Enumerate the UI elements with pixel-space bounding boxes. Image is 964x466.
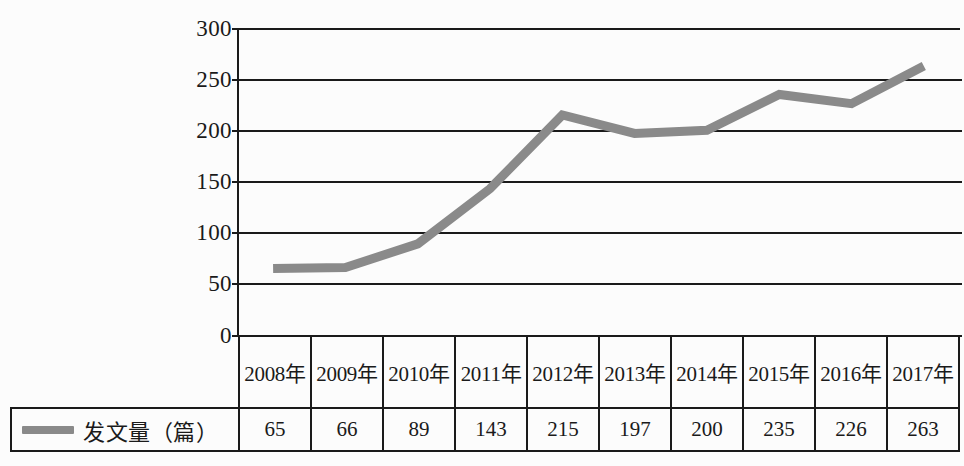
header-spacer-cell: [11, 336, 239, 408]
y-tick-100: [232, 232, 239, 234]
table-header-row: 2008年 2009年 2010年 2011年 2012年 2013年 2014…: [11, 336, 959, 408]
table-value-2009: 66: [311, 408, 383, 451]
table-header-2016: 2016年: [815, 336, 887, 408]
gridline-200: [239, 130, 962, 132]
y-tick-label-300: 300: [0, 17, 232, 40]
y-tick-200: [232, 130, 239, 132]
y-tick-300: [232, 28, 239, 30]
gridline-50: [239, 283, 962, 285]
gridline-150: [239, 181, 962, 183]
y-tick-label-250: 250: [0, 68, 232, 91]
y-tick-250: [232, 79, 239, 81]
chart-data-table: 2008年 2009年 2010年 2011年 2012年 2013年 2014…: [10, 335, 960, 452]
y-tick-label-150: 150: [0, 170, 232, 193]
table-value-2008: 65: [239, 408, 311, 451]
table-header-2012: 2012年: [527, 336, 599, 408]
y-tick-label-50: 50: [0, 272, 232, 295]
table-value-2012: 215: [527, 408, 599, 451]
table-value-2010: 89: [383, 408, 455, 451]
legend-entry: 发文量（篇）: [11, 408, 239, 451]
table-header-2015: 2015年: [743, 336, 815, 408]
chart-page: 300 250 200 150 100 50 0 2008年 2009年: [0, 0, 964, 466]
gridline-250: [239, 79, 962, 81]
table-header-2013: 2013年: [599, 336, 671, 408]
y-tick-label-200: 200: [0, 119, 232, 142]
legend-label: 发文量（篇）: [83, 414, 218, 446]
table-header-2010: 2010年: [383, 336, 455, 408]
table-header-2011: 2011年: [455, 336, 527, 408]
y-tick-50: [232, 283, 239, 285]
table-value-2017: 263: [887, 408, 959, 451]
y-tick-150: [232, 181, 239, 183]
table-header-2008: 2008年: [239, 336, 311, 408]
table-header-2014: 2014年: [671, 336, 743, 408]
table-value-2014: 200: [671, 408, 743, 451]
y-tick-label-100: 100: [0, 221, 232, 244]
y-axis-labels: 300 250 200 150 100 50 0: [0, 0, 232, 360]
legend-line-swatch-icon: [22, 426, 74, 434]
plot-area: [237, 28, 960, 335]
table-value-2015: 235: [743, 408, 815, 451]
table-value-row: 发文量（篇） 65 66 89 143 215 197 200 235 226 …: [11, 408, 959, 451]
table-header-2009: 2009年: [311, 336, 383, 408]
table-value-2016: 226: [815, 408, 887, 451]
table-value-2013: 197: [599, 408, 671, 451]
table-header-2017: 2017年: [887, 336, 959, 408]
gridline-100: [239, 232, 962, 234]
table-value-2011: 143: [455, 408, 527, 451]
